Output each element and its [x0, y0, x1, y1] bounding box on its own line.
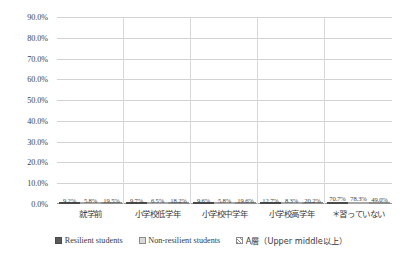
bar-group: 9.6% 5.8% 19.6% [191, 17, 258, 204]
category-label: 小学校高学年 [258, 207, 325, 219]
plot-area: 9.2% 5.8% 19.5% [57, 17, 392, 204]
bar-wrapper: 6.5% [147, 202, 168, 204]
legend-label: A層（Upper middle以上） [246, 234, 347, 246]
bar-wrapper: 78.3% [348, 202, 369, 204]
bar-value-label: 12.7% [262, 197, 278, 204]
bar-group: 9.2% 5.8% 19.5% [57, 17, 124, 204]
bar-group: 12.7% 8.3% 20.2% [258, 17, 325, 204]
category-label: 小学校中学年 [191, 207, 258, 219]
bar-wrapper: 9.6% [193, 202, 214, 204]
bar-wrapper: 19.5% [101, 202, 122, 204]
y-tick-label: 50.0% [27, 96, 48, 105]
legend-swatch-icon [236, 237, 243, 244]
bar-wrapper: 12.7% [260, 202, 281, 204]
legend-swatch-icon [55, 237, 62, 244]
bar-wrapper: 9.7% [126, 202, 147, 204]
y-tick-label: 10.0% [27, 179, 48, 188]
bar-value-label: 6.5% [151, 197, 164, 204]
category-label: 就学前 [57, 207, 124, 219]
legend-label: Non-resilient students [148, 236, 220, 245]
bar-value-label: 9.2% [63, 197, 76, 204]
bar-value-label: 5.8% [218, 197, 231, 204]
bar-wrapper: 70.7% [327, 202, 348, 204]
bar-value-label: 20.2% [304, 197, 320, 204]
bar-value-label: 18.2% [170, 197, 186, 204]
bar-value-label: 70.7% [329, 195, 345, 202]
bar-value-label: 19.6% [237, 197, 253, 204]
bar-value-label: 9.6% [197, 197, 210, 204]
bar-value-label: 5.8% [84, 197, 97, 204]
x-axis-categories: 就学前 小学校低学年 小学校中学年 小学校高学年 ＊習っていない [57, 207, 392, 219]
bar-chart: 90.0% 80.0% 70.0% 60.0% 50.0% 40.0% 30.0… [0, 0, 402, 258]
category-label: 小学校低学年 [124, 207, 191, 219]
chart-legend: Resilient students Non-resilient student… [0, 234, 402, 246]
y-tick-label: 60.0% [27, 75, 48, 84]
y-tick-label: 90.0% [27, 13, 48, 22]
bar-wrapper: 20.2% [302, 202, 323, 204]
bar-wrapper: 9.2% [59, 202, 80, 204]
bar-value-label: 49.0% [371, 196, 387, 203]
bar-value-label: 78.3% [350, 195, 366, 202]
bar-value-label: 19.5% [103, 197, 119, 204]
y-tick-label: 20.0% [27, 158, 48, 167]
bar-wrapper: 49.0% [369, 202, 390, 204]
bar-value-label: 8.3% [285, 197, 298, 204]
legend-label: Resilient students [65, 236, 123, 245]
y-axis: 90.0% 80.0% 70.0% 60.0% 50.0% 40.0% 30.0… [0, 17, 52, 204]
legend-item-a-layer[interactable]: A層（Upper middle以上） [236, 234, 346, 246]
y-tick-label: 40.0% [27, 116, 48, 125]
bar-wrapper: 5.8% [214, 202, 235, 204]
legend-swatch-icon [139, 237, 146, 244]
bar-groups: 9.2% 5.8% 19.5% [57, 17, 392, 204]
bar-wrapper: 5.8% [80, 202, 101, 204]
y-tick-label: 30.0% [27, 137, 48, 146]
bar-wrapper: 19.6% [235, 202, 256, 204]
legend-item-resilient[interactable]: Resilient students [55, 236, 123, 245]
category-label: ＊習っていない [325, 207, 392, 219]
y-tick-label: 80.0% [27, 33, 48, 42]
legend-item-non-resilient[interactable]: Non-resilient students [139, 236, 221, 245]
bar-wrapper: 8.3% [281, 202, 302, 204]
bar-wrapper: 18.2% [168, 202, 189, 204]
y-tick-label: 0.0% [31, 200, 48, 209]
bar-group: 70.7% 78.3% 49.0% [325, 17, 392, 204]
y-tick-label: 70.0% [27, 54, 48, 63]
bar-group: 9.7% 6.5% 18.2% [124, 17, 191, 204]
bar-non-resilient [348, 202, 369, 204]
bar-value-label: 9.7% [130, 197, 143, 204]
